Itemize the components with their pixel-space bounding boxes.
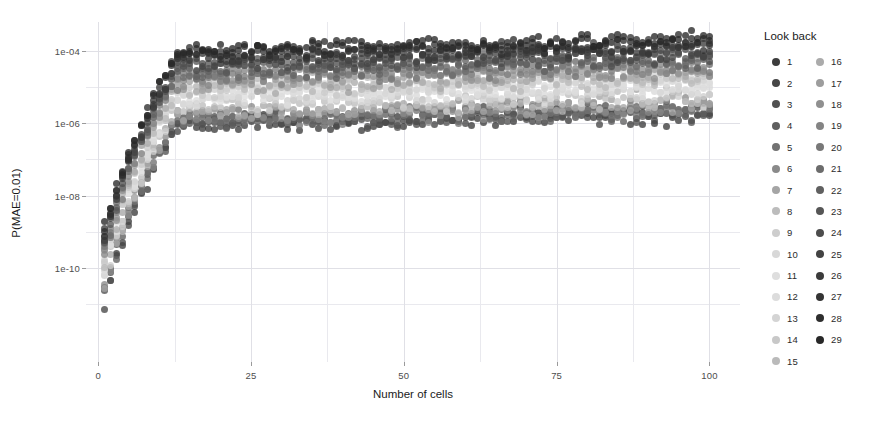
legend-key-icon: [772, 357, 780, 365]
scatter-point: [303, 44, 310, 51]
legend-key-icon: [816, 272, 824, 280]
legend-key-icon: [816, 186, 824, 194]
legend-key-icon: [816, 122, 824, 130]
legend-item-2[interactable]: 2: [772, 72, 802, 93]
legend-item-27[interactable]: 27: [816, 286, 846, 307]
scatter-point: [694, 90, 701, 97]
scatter-point: [107, 232, 114, 239]
legend-item-6[interactable]: 6: [772, 158, 802, 179]
legend-key-icon: [816, 165, 824, 173]
scatter-point: [700, 53, 707, 60]
scatter-point: [468, 122, 475, 129]
scatter-point: [168, 76, 175, 83]
legend-item-7[interactable]: 7: [772, 179, 802, 200]
scatter-point: [388, 62, 395, 69]
legend-key-icon: [772, 293, 780, 301]
legend-item-label: 8: [787, 206, 802, 217]
scatter-point: [125, 222, 132, 229]
legend-key-icon: [772, 272, 780, 280]
scatter-point: [327, 51, 334, 58]
scatter-point: [101, 306, 108, 313]
scatter-point: [651, 104, 658, 111]
legend-item-17[interactable]: 17: [816, 72, 846, 93]
legend-item-5[interactable]: 5: [772, 137, 802, 158]
legend-item-15[interactable]: 15: [772, 350, 802, 371]
legend-item-29[interactable]: 29: [816, 329, 846, 350]
x-axis-tick-label: 25: [246, 370, 257, 381]
legend-item-19[interactable]: 19: [816, 115, 846, 136]
legend-item-label: 2: [787, 78, 802, 89]
scatter-point: [254, 106, 261, 113]
legend-item-12[interactable]: 12: [772, 286, 802, 307]
scatter-points-layer: [86, 22, 740, 362]
scatter-point: [168, 70, 175, 77]
y-axis-title: P(MAE=0.01): [10, 33, 32, 373]
scatter-point: [174, 128, 181, 135]
legend-item-18[interactable]: 18: [816, 94, 846, 115]
legend-item-10[interactable]: 10: [772, 244, 802, 265]
scatter-point: [651, 75, 658, 82]
scatter-point: [413, 58, 420, 65]
y-axis-tick-labels: 1e-041e-061e-081e-10: [28, 22, 80, 362]
legend-item-21[interactable]: 21: [816, 158, 846, 179]
legend-item-4[interactable]: 4: [772, 115, 802, 136]
legend-item-label: 16: [831, 56, 846, 67]
legend-item-1[interactable]: 1: [772, 51, 802, 72]
scatter-point: [138, 188, 145, 195]
scatter-point: [284, 102, 291, 109]
legend-item-16[interactable]: 16: [816, 51, 846, 72]
scatter-point: [156, 110, 163, 117]
legend-key-icon: [772, 229, 780, 237]
legend-item-3[interactable]: 3: [772, 94, 802, 115]
scatter-point: [303, 94, 310, 101]
scatter-point: [376, 108, 383, 115]
scatter-point: [694, 76, 701, 83]
legend-key-icon: [816, 336, 824, 344]
legend-item-9[interactable]: 9: [772, 222, 802, 243]
scatter-point: [517, 88, 524, 95]
scatter-point: [633, 119, 640, 126]
legend-column-1: 123456789101112131415: [772, 51, 802, 372]
legend-item-14[interactable]: 14: [772, 329, 802, 350]
legend-item-22[interactable]: 22: [816, 179, 846, 200]
x-axis-tick-label: 50: [398, 370, 409, 381]
legend-item-28[interactable]: 28: [816, 308, 846, 329]
scatter-point: [468, 102, 475, 109]
scatter-point: [425, 96, 432, 103]
legend-key-icon: [772, 100, 780, 108]
scatter-point: [572, 89, 579, 96]
legend-key-icon: [772, 122, 780, 130]
x-axis-tick-mark: [98, 362, 99, 366]
scatter-point: [663, 123, 670, 130]
legend-item-8[interactable]: 8: [772, 201, 802, 222]
legend-item-25[interactable]: 25: [816, 244, 846, 265]
scatter-point: [706, 69, 713, 76]
scatter-point: [541, 101, 548, 108]
scatter-point: [400, 104, 407, 111]
scatter-point: [144, 119, 151, 126]
scatter-point: [529, 111, 536, 118]
scatter-point: [101, 228, 108, 235]
legend-item-26[interactable]: 26: [816, 265, 846, 286]
legend-item-13[interactable]: 13: [772, 308, 802, 329]
scatter-point: [688, 119, 695, 126]
scatter-point: [498, 118, 505, 125]
scatter-point: [535, 96, 542, 103]
scatter-point: [682, 86, 689, 93]
x-axis-tick-mark: [251, 362, 252, 366]
scatter-point: [162, 128, 169, 135]
legend-item-20[interactable]: 20: [816, 137, 846, 158]
scatter-point: [101, 251, 108, 258]
scatter-point: [199, 74, 206, 81]
scatter-point: [406, 88, 413, 95]
legend-item-11[interactable]: 11: [772, 265, 802, 286]
legend: Look back 123456789101112131415161718192…: [758, 30, 876, 372]
chart-root: 1e-041e-061e-081e-10 P(MAE=0.01) 0255075…: [0, 0, 880, 435]
scatter-point: [193, 97, 200, 104]
scatter-point: [535, 62, 542, 69]
legend-key-icon: [772, 165, 780, 173]
legend-item-23[interactable]: 23: [816, 201, 846, 222]
legend-item-label: 10: [787, 249, 802, 260]
scatter-point: [706, 33, 713, 40]
legend-item-24[interactable]: 24: [816, 222, 846, 243]
